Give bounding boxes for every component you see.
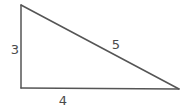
right-triangle-diagram — [0, 0, 188, 110]
horizontal-leg-label: 4 — [59, 94, 67, 107]
vertical-leg-label: 3 — [11, 43, 19, 56]
horizontal-leg — [21, 88, 179, 89]
hypotenuse — [21, 5, 179, 89]
hypotenuse-label: 5 — [112, 38, 120, 51]
